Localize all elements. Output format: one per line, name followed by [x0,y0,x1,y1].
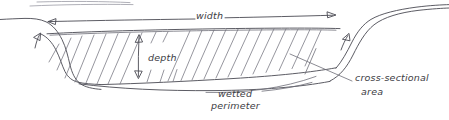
label-depth: depth [148,52,177,65]
upper-ground-line [30,1,133,6]
right-bank-outline [330,5,449,81]
depth-dimension-arrow [135,35,143,79]
right-bank-arrow [341,33,350,50]
label-cross-sectional-area-line2: area [361,86,383,99]
left-bank-arrow [34,33,41,48]
wetted-perimeter-line [79,81,330,90]
label-width: width [196,10,223,23]
left-bank-outline [0,18,101,89]
label-cross-sectional-area-line1: cross-sectional [355,72,429,85]
label-wetted-perimeter-line2: perimeter [211,100,260,113]
diagram-canvas: .ink { fill:none; stroke:#4a4a52; stroke… [0,0,449,120]
width-dimension-arrow [48,12,336,25]
label-wetted-perimeter-line1: wetted [218,88,252,101]
channel-bed-line [100,68,336,85]
flow-area-hatching [49,29,321,84]
